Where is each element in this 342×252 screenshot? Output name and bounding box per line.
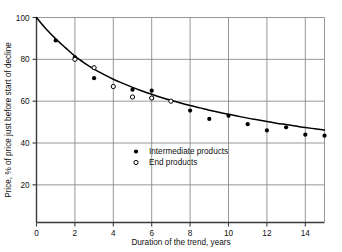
x-tick-label: 2 [73,229,78,238]
data-point-intermediate [284,125,288,129]
data-point-intermediate [92,76,96,80]
x-tick-label: 8 [188,229,193,238]
legend-marker-end [134,160,138,164]
legend-label: Intermediate products [149,147,228,156]
price-decline-scatter-chart: 0246810121420406080100 Intermediate prod… [0,0,342,252]
x-tick-label: 10 [224,229,234,238]
data-point-intermediate [150,89,154,93]
data-point-intermediate [265,128,269,132]
data-point-intermediate [207,117,211,121]
data-point-intermediate [322,134,326,138]
legend-label: End products [149,158,197,167]
data-point-end [150,96,154,100]
legend-marker-intermediate [134,149,138,153]
x-tick-label: 12 [262,229,272,238]
y-tick-label: 20 [20,181,30,190]
data-point-intermediate [54,38,58,42]
y-tick-label: 80 [20,55,30,64]
data-point-intermediate [246,122,250,126]
x-tick-label: 0 [34,229,39,238]
x-tick-label: 4 [111,229,116,238]
data-point-intermediate [226,114,230,118]
y-tick-label: 60 [20,97,30,106]
x-tick-label: 6 [149,229,154,238]
y-tick-label: 40 [20,139,30,148]
data-point-end [169,99,173,103]
data-point-end [92,66,96,70]
y-tick-label: 100 [16,14,30,23]
y-axis-label: Price, % of price just before start of d… [4,42,13,198]
x-tick-label: 14 [301,229,311,238]
data-point-end [111,84,115,88]
data-point-intermediate [130,88,134,92]
data-point-intermediate [303,133,307,137]
x-axis-label: Duration of the trend, years [131,238,230,247]
data-point-intermediate [188,108,192,112]
data-point-end [73,57,77,61]
chart-container: 0246810121420406080100 Intermediate prod… [0,0,342,252]
data-point-end [130,95,134,99]
